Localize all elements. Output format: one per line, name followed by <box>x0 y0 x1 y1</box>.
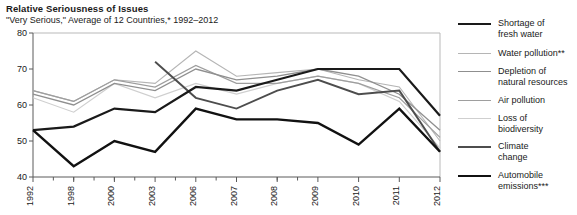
x-tick-label: 2008 <box>269 186 279 206</box>
legend-item-label: Shortage of fresh water <box>498 18 545 39</box>
y-tick-label: 60 <box>17 100 27 110</box>
legend-item-label: Automobile emissions*** <box>498 170 549 191</box>
series-line <box>33 69 440 130</box>
legend-item[interactable]: Depletion of natural resources <box>458 66 568 87</box>
legend-item[interactable]: Air pollution <box>458 95 545 106</box>
legend-item[interactable]: Climate change <box>458 141 529 162</box>
x-tick-label: 2006 <box>188 186 198 206</box>
x-tick-label: 2007 <box>229 186 239 206</box>
chart-container: Relative Seriousness of Issues "Very Ser… <box>0 0 577 215</box>
x-tick-label: 2012 <box>432 186 442 206</box>
legend-item-label: Water pollution** <box>498 48 565 59</box>
legend-item[interactable]: Water pollution** <box>458 48 565 59</box>
legend-item-label: Depletion of natural resources <box>498 66 568 87</box>
y-tick-label: 50 <box>17 136 27 146</box>
x-tick-label: 2000 <box>106 186 116 206</box>
x-tick-label: 2003 <box>147 186 157 206</box>
legend-item[interactable]: Shortage of fresh water <box>458 18 545 39</box>
x-tick-label: 2010 <box>351 186 361 206</box>
y-tick-label: 80 <box>17 28 27 38</box>
legend-item-label: Loss of biodiversity <box>498 113 543 134</box>
plot-area: 4050607080199219982000200320062007200820… <box>0 0 460 215</box>
series-line <box>33 69 440 130</box>
legend-item-label: Climate change <box>498 141 529 162</box>
x-tick-label: 2011 <box>391 186 401 205</box>
x-tick-label: 2009 <box>310 186 320 206</box>
legend-item[interactable]: Loss of biodiversity <box>458 113 543 134</box>
x-tick-label: 1998 <box>66 186 76 206</box>
chart-legend: Shortage of fresh waterWater pollution**… <box>458 0 577 215</box>
y-tick-label: 40 <box>17 172 27 182</box>
x-tick-label: 1992 <box>25 186 35 206</box>
series-line <box>33 76 440 148</box>
legend-item-label: Air pollution <box>498 95 545 106</box>
line-chart-svg: 4050607080199219982000200320062007200820… <box>0 0 460 215</box>
legend-item[interactable]: Automobile emissions*** <box>458 170 549 191</box>
y-tick-label: 70 <box>17 64 27 74</box>
